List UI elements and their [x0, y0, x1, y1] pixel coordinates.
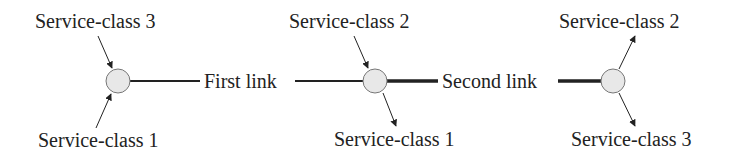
node2-top-label: Service-class 2 — [289, 10, 410, 32]
node-3 — [601, 69, 625, 93]
node1-top-label: Service-class 3 — [35, 10, 156, 32]
node3-bottom-label: Service-class 3 — [571, 128, 692, 150]
network-diagram: First link Second link Service-class 3 S… — [0, 0, 740, 161]
first-link: First link — [130, 70, 363, 92]
node1-in-arrow-bottom — [96, 94, 111, 128]
node-2 — [363, 69, 387, 93]
node3-out-arrow-top — [619, 36, 635, 69]
node2-bottom-label: Service-class 1 — [334, 128, 455, 150]
first-link-label: First link — [204, 70, 277, 92]
node2-out-arrow — [383, 93, 396, 126]
node1-bottom-label: Service-class 1 — [38, 129, 159, 151]
node1-in-arrow-top — [98, 36, 112, 68]
node2-in-arrow — [354, 36, 368, 68]
node3-top-label: Service-class 2 — [559, 10, 680, 32]
second-link-label: Second link — [442, 70, 537, 92]
second-link: Second link — [387, 70, 601, 92]
node3-out-arrow-bottom — [619, 93, 635, 126]
node-1 — [106, 69, 130, 93]
